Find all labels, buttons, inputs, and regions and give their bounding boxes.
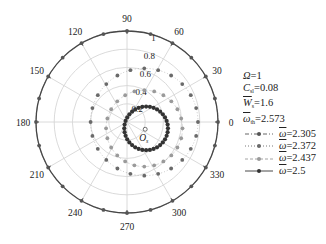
data-point — [194, 134, 198, 138]
data-point — [105, 136, 109, 140]
data-point — [37, 97, 41, 101]
data-point — [194, 106, 198, 110]
legend-label: ω=2.305 — [279, 128, 316, 140]
grid-spoke — [127, 122, 173, 201]
data-point — [61, 184, 65, 188]
data-point — [148, 105, 152, 109]
param-c-sl: Csl=0.08 — [243, 82, 316, 97]
param-omega-th: ωth=2.573 — [243, 113, 316, 128]
data-point — [171, 41, 175, 45]
grid-spoke — [82, 122, 128, 201]
data-point — [104, 82, 108, 86]
angle-tick-label: 240 — [68, 208, 83, 218]
data-point — [169, 167, 173, 171]
data-point — [196, 120, 200, 124]
data-point — [175, 146, 179, 150]
legend-entry: ω=2.5 — [243, 165, 316, 177]
data-point — [128, 68, 132, 72]
data-point — [123, 160, 127, 164]
data-point — [179, 117, 183, 121]
data-point — [166, 126, 170, 130]
legend-line-icon — [243, 155, 275, 163]
data-point — [165, 134, 169, 138]
angle-tick-label: 30 — [212, 66, 222, 76]
grid-spoke — [127, 77, 206, 123]
param-omega: Ω=1 — [243, 70, 316, 82]
angle-tick-label: 300 — [172, 208, 187, 218]
data-point — [46, 75, 50, 79]
data-point — [149, 208, 153, 212]
data-point — [156, 68, 160, 72]
data-point — [149, 32, 153, 36]
data-point — [89, 120, 93, 124]
legend-line-icon — [243, 142, 275, 150]
legend-entries: ω=2.305ω=2.372ω=2.437ω=2.5 — [243, 128, 316, 177]
data-point — [216, 120, 220, 124]
center-label: Os — [139, 133, 149, 144]
data-point — [175, 107, 179, 111]
data-point — [91, 106, 95, 110]
data-point — [189, 93, 193, 97]
data-point — [34, 120, 38, 124]
legend-entry: ω=2.305 — [243, 128, 316, 140]
data-point — [213, 97, 217, 101]
data-point — [180, 158, 184, 162]
data-point — [144, 148, 148, 152]
angle-tick-label: 210 — [30, 170, 45, 180]
data-point — [96, 147, 100, 151]
data-point — [142, 66, 146, 70]
param-w-s: Ws=1.6 — [243, 97, 316, 112]
legend-line-icon — [243, 167, 275, 175]
data-point — [61, 56, 65, 60]
data-point — [171, 199, 175, 203]
data-point — [213, 144, 217, 148]
data-point — [179, 136, 183, 140]
data-point — [104, 158, 108, 162]
data-point — [204, 166, 208, 170]
data-point — [162, 93, 166, 97]
data-point — [142, 174, 146, 178]
legend-label: ω=2.372 — [279, 140, 316, 152]
data-point — [96, 93, 100, 97]
data-point — [151, 106, 155, 110]
data-point — [102, 208, 106, 212]
data-point — [125, 29, 129, 33]
data-point — [189, 147, 193, 151]
data-point — [148, 148, 152, 152]
data-point — [115, 153, 119, 157]
data-point — [166, 122, 170, 126]
data-point — [115, 99, 119, 103]
data-point — [109, 146, 113, 150]
data-point — [104, 126, 108, 130]
data-point — [123, 122, 127, 126]
data-point — [37, 144, 41, 148]
data-point — [144, 104, 148, 108]
data-point — [162, 160, 166, 164]
data-point — [140, 105, 144, 109]
data-point — [140, 148, 144, 152]
grid-spoke — [82, 43, 128, 122]
data-point — [152, 90, 156, 94]
legend-line-icon — [243, 130, 275, 138]
data-point — [128, 172, 132, 176]
data-point — [125, 211, 129, 215]
angle-tick-label: 90 — [122, 14, 132, 24]
data-point — [132, 163, 136, 167]
radial-tick-label: 0.8 — [144, 51, 156, 61]
data-point — [80, 199, 84, 203]
grid-spoke — [48, 122, 127, 168]
legend-entry: ω=2.437 — [243, 152, 316, 164]
radial-tick-label: 0.6 — [140, 69, 152, 79]
data-point — [204, 75, 208, 79]
data-point — [169, 153, 173, 157]
data-point — [189, 56, 193, 60]
data-point — [123, 93, 127, 97]
data-point — [152, 163, 156, 167]
data-point — [116, 74, 120, 78]
angle-tick-label: 120 — [68, 27, 83, 37]
legend: Ω=1 Csl=0.08 Ws=1.6 ωth=2.573 ω=2.305ω=2… — [243, 70, 316, 177]
data-point — [122, 126, 126, 130]
angle-tick-label: 270 — [120, 222, 135, 232]
data-point — [189, 184, 193, 188]
data-point — [142, 88, 146, 92]
